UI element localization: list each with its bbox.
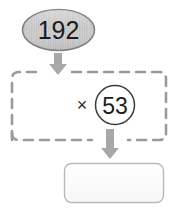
multiplication-operator: × xyxy=(77,95,88,115)
multiplier-label: 53 xyxy=(102,93,128,119)
operation-group-outline xyxy=(12,72,166,140)
multiplicand-label: 192 xyxy=(38,16,80,44)
multiplication-flow-diagram: 192 × 53 xyxy=(0,0,178,212)
arrow-to-answer-icon xyxy=(101,129,119,159)
arrow-to-operation-icon xyxy=(49,53,67,75)
answer-box[interactable] xyxy=(65,164,164,203)
multiplicand-node: 192 xyxy=(23,10,95,51)
multiplier-node: 53 xyxy=(96,86,135,125)
diagram-canvas: 192 × 53 xyxy=(0,0,178,212)
